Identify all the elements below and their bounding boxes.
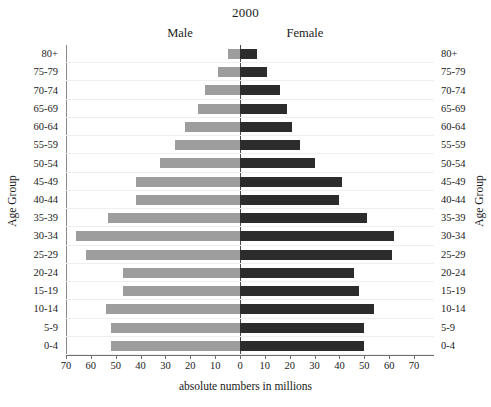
pyramid-row bbox=[66, 118, 434, 136]
bar-male bbox=[76, 231, 240, 241]
x-tick-mark bbox=[265, 355, 266, 359]
bar-female bbox=[240, 49, 257, 59]
plot-area bbox=[66, 45, 434, 355]
x-tick-mark bbox=[66, 355, 67, 359]
y-tick-label-left: 25-29 bbox=[34, 250, 59, 260]
chart-title: 2000 bbox=[0, 5, 491, 21]
y-tick-label-left: 75-79 bbox=[34, 67, 59, 77]
bar-female bbox=[240, 323, 364, 333]
bar-male bbox=[111, 341, 240, 351]
y-tick-label-right: 65-69 bbox=[441, 104, 466, 114]
y-tick-label-left: 35-39 bbox=[34, 213, 59, 223]
bar-female bbox=[240, 341, 364, 351]
bar-male bbox=[205, 85, 240, 95]
y-tick-label-right: 20-24 bbox=[441, 268, 466, 278]
pyramid-row bbox=[66, 81, 434, 99]
y-tick-label-right: 30-34 bbox=[441, 231, 466, 241]
population-pyramid-chart: 2000 Male Female Age Group Age Group abs… bbox=[0, 0, 491, 407]
bar-male bbox=[160, 158, 240, 168]
y-tick-label-right: 40-44 bbox=[441, 195, 466, 205]
y-tick-label-left: 65-69 bbox=[34, 104, 59, 114]
pyramid-row bbox=[66, 63, 434, 81]
y-tick-label-right: 0-4 bbox=[441, 341, 455, 351]
x-tick-mark bbox=[141, 355, 142, 359]
x-tick-mark bbox=[190, 355, 191, 359]
pyramid-row bbox=[66, 300, 434, 318]
bar-female bbox=[240, 85, 280, 95]
x-tick-mark bbox=[339, 355, 340, 359]
y-tick-label-right: 45-49 bbox=[441, 177, 466, 187]
pyramid-row bbox=[66, 173, 434, 191]
y-tick-label-left: 10-14 bbox=[34, 304, 59, 314]
bar-female bbox=[240, 122, 292, 132]
x-tick-mark bbox=[165, 355, 166, 359]
bar-female bbox=[240, 304, 374, 314]
bar-male bbox=[106, 304, 240, 314]
pyramid-row bbox=[66, 154, 434, 172]
pyramid-row bbox=[66, 209, 434, 227]
bar-male bbox=[123, 286, 240, 296]
y-tick-label-left: 60-64 bbox=[34, 122, 59, 132]
y-tick-label-left: 5-9 bbox=[44, 323, 58, 333]
bar-female bbox=[240, 213, 367, 223]
x-axis-title: absolute numbers in millions bbox=[0, 380, 491, 392]
y-tick-label-right: 35-39 bbox=[441, 213, 466, 223]
y-tick-label-left: 20-24 bbox=[34, 268, 59, 278]
bar-male bbox=[136, 195, 240, 205]
pyramid-row bbox=[66, 191, 434, 209]
bar-female bbox=[240, 158, 315, 168]
bar-female bbox=[240, 250, 392, 260]
bar-female bbox=[240, 231, 394, 241]
y-tick-label-right: 80+ bbox=[441, 49, 457, 59]
bar-male bbox=[111, 323, 240, 333]
y-tick-label-left: 30-34 bbox=[34, 231, 59, 241]
x-tick-label: 70 bbox=[399, 360, 429, 371]
y-tick-label-right: 60-64 bbox=[441, 122, 466, 132]
bar-male bbox=[185, 122, 240, 132]
x-tick-mark bbox=[290, 355, 291, 359]
pyramid-row bbox=[66, 337, 434, 355]
bar-male bbox=[228, 49, 240, 59]
pyramid-row bbox=[66, 246, 434, 264]
bar-male bbox=[86, 250, 240, 260]
y-tick-label-left: 0-4 bbox=[44, 341, 58, 351]
bar-female bbox=[240, 286, 359, 296]
y-tick-label-right: 70-74 bbox=[441, 86, 466, 96]
pyramid-row bbox=[66, 45, 434, 63]
series-caption-male: Male bbox=[130, 26, 230, 41]
bar-male bbox=[198, 104, 240, 114]
x-tick-mark bbox=[91, 355, 92, 359]
x-tick-mark bbox=[389, 355, 390, 359]
y-tick-label-left: 15-19 bbox=[34, 286, 59, 296]
y-tick-label-left: 70-74 bbox=[34, 86, 59, 96]
x-axis-line bbox=[66, 355, 434, 356]
bar-female bbox=[240, 177, 342, 187]
pyramid-row bbox=[66, 136, 434, 154]
series-caption-female: Female bbox=[255, 26, 355, 41]
bar-male bbox=[108, 213, 240, 223]
x-tick-mark bbox=[215, 355, 216, 359]
y-tick-label-left: 40-44 bbox=[34, 195, 59, 205]
pyramid-row bbox=[66, 264, 434, 282]
bar-female bbox=[240, 140, 300, 150]
bar-male bbox=[175, 140, 240, 150]
y-tick-label-left: 50-54 bbox=[34, 159, 59, 169]
x-tick-mark bbox=[364, 355, 365, 359]
y-tick-label-right: 50-54 bbox=[441, 159, 466, 169]
x-tick-mark bbox=[116, 355, 117, 359]
pyramid-row bbox=[66, 282, 434, 300]
y-tick-label-left: 55-59 bbox=[34, 140, 59, 150]
y-tick-label-right: 5-9 bbox=[441, 323, 455, 333]
y-axis-title-right: Age Group bbox=[473, 161, 485, 241]
bar-female bbox=[240, 195, 339, 205]
y-tick-label-right: 55-59 bbox=[441, 140, 466, 150]
pyramid-row bbox=[66, 100, 434, 118]
y-tick-label-right: 15-19 bbox=[441, 286, 466, 296]
bar-male bbox=[123, 268, 240, 278]
y-tick-label-left: 80+ bbox=[42, 49, 58, 59]
pyramid-row bbox=[66, 227, 434, 245]
x-tick-mark bbox=[240, 355, 241, 359]
y-axis-title-left: Age Group bbox=[6, 161, 18, 241]
x-tick-mark bbox=[414, 355, 415, 359]
bar-female bbox=[240, 67, 267, 77]
